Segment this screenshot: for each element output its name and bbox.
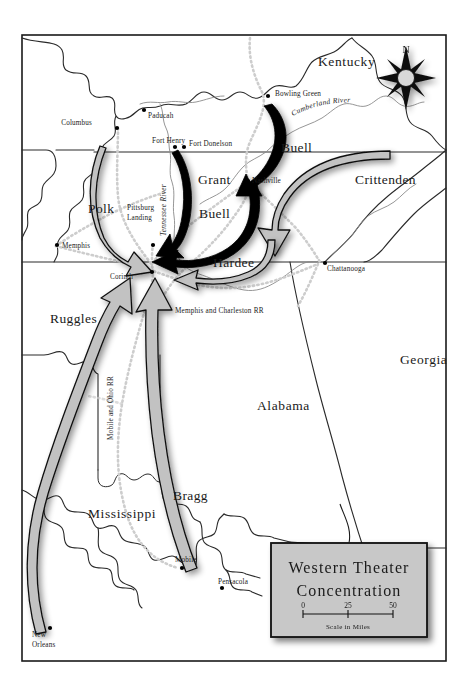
commander-label-buell-1: Buell xyxy=(199,206,230,221)
city-dot-corinth xyxy=(150,270,154,274)
city-label-chattanooga: Chattanooga xyxy=(327,265,366,273)
city-label-nashville: Nashville xyxy=(252,177,281,185)
city-dot-nashville xyxy=(246,179,250,183)
river-label-tennessee: Tennessee River xyxy=(159,184,168,236)
city-dot-mobile xyxy=(180,566,184,570)
state-label-kentucky: Kentucky xyxy=(318,54,375,69)
city-label-memphis: Memphis xyxy=(62,242,90,250)
city-dot-memphis xyxy=(55,243,59,247)
commander-label-crittenden-3: Crittenden xyxy=(355,172,416,187)
city-dot-columbus xyxy=(115,126,119,130)
state-label-georgia: Georgia xyxy=(400,352,447,367)
map-title-line1: Western Theater xyxy=(288,559,409,576)
scale-tick-0: 0 xyxy=(301,601,305,610)
title-cartouche: Western Theater Concentration 0 25 50 Sc… xyxy=(271,543,427,637)
rr-label-mobile-ohio: Mobile and Ohio RR xyxy=(107,376,115,440)
commander-label-ruggles-6: Ruggles xyxy=(50,311,97,326)
city-dot-bowling-green xyxy=(266,94,270,98)
commander-label-buell-2: Buell xyxy=(281,140,312,155)
city-dot-pensacola xyxy=(220,586,224,590)
commander-label-bragg-7: Bragg xyxy=(173,488,208,503)
city-label-fort-henry: Fort Henry xyxy=(152,137,185,145)
commander-label-polk-4: Polk xyxy=(88,201,114,216)
city-label-pittsburg-line1: Pittsburg xyxy=(127,204,154,212)
commander-label-grant-0: Grant xyxy=(198,172,231,187)
city-dot-fort-donelson xyxy=(182,145,186,149)
city-label-pittsburg-line2: Landing xyxy=(127,214,152,222)
city-label-fort-donelson: Fort Donelson xyxy=(189,140,233,148)
scale-tick-50: 50 xyxy=(389,601,397,610)
city-label-mobile: Mobile xyxy=(175,556,197,564)
compass-north-label: N xyxy=(402,44,409,55)
state-label-mississippi: Mississippi xyxy=(88,506,156,521)
city-label-paducah: Paducah xyxy=(148,112,174,120)
western-theater-map: KentuckyGeorgiaAlabamaMississippiGrantBu… xyxy=(0,0,468,699)
city-dot-new xyxy=(48,626,52,630)
city-label-corinth: Corinth xyxy=(110,273,133,281)
city-label-new-line1: New xyxy=(32,631,47,639)
city-label-new-line2: Orleans xyxy=(32,641,55,649)
city-dot-paducah xyxy=(142,108,146,112)
state-label-alabama: Alabama xyxy=(257,398,310,413)
map-canvas: KentuckyGeorgiaAlabamaMississippiGrantBu… xyxy=(0,0,468,699)
city-dot-fort-henry xyxy=(173,145,177,149)
scale-tick-25: 25 xyxy=(344,601,352,610)
commander-label-hardee-5: Hardee xyxy=(213,255,254,270)
map-title-line2: Concentration xyxy=(297,582,402,599)
city-label-bowling-green: Bowling Green xyxy=(275,90,321,98)
city-label-pensacola: Pensacola xyxy=(218,578,249,586)
rr-label-memphis-charleston: Memphis and Charleston RR xyxy=(175,307,264,315)
city-dot-pittsburg xyxy=(151,243,155,247)
scale-caption: Scale in Miles xyxy=(326,623,370,631)
city-label-columbus: Columbus xyxy=(61,119,92,127)
